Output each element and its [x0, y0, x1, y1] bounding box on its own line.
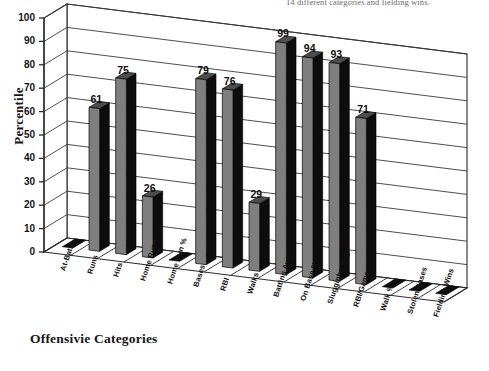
bar-value-label: 94: [298, 43, 322, 54]
chart-canvas: 14 different categories and fielding win…: [0, 0, 489, 371]
y-axis-tick-100: 100: [5, 13, 35, 23]
y-axis-tick-60: 60: [5, 107, 35, 117]
y-axis-tick-50: 50: [5, 130, 35, 140]
y-axis-tick-70: 70: [5, 83, 35, 93]
y-axis-tick-90: 90: [5, 36, 35, 46]
y-axis-tick-10: 10: [5, 224, 35, 234]
y-axis-tick-30: 30: [5, 177, 35, 187]
bar-value-label: 61: [84, 94, 108, 105]
y-axis-tick-40: 40: [5, 153, 35, 163]
y-axis-tick-20: 20: [5, 200, 35, 210]
bar-value-label: 71: [351, 104, 375, 115]
bar-value-label: 75: [111, 65, 135, 76]
bar-value-label: 26: [138, 183, 162, 194]
bar-value-label: 29: [244, 189, 268, 200]
plot-area: [0, 0, 489, 371]
y-axis-tick-0: 0: [5, 247, 35, 257]
bar-value-label: 79: [191, 65, 215, 76]
y-axis-tick-80: 80: [5, 60, 35, 70]
bar-value-label: 99: [271, 28, 295, 39]
bar-value-label: 76: [218, 76, 242, 87]
bar-value-label: 93: [324, 49, 348, 60]
